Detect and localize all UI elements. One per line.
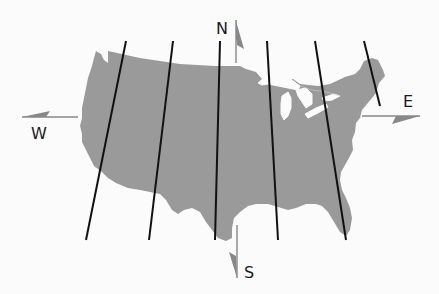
west-arrow: W bbox=[22, 111, 78, 143]
us-landmass bbox=[80, 51, 385, 241]
south-arrow: S bbox=[229, 225, 254, 282]
east-arrow-head bbox=[392, 116, 420, 124]
east-label: E bbox=[403, 92, 413, 111]
map-canvas: N S W E bbox=[0, 0, 439, 294]
north-label: N bbox=[216, 19, 228, 38]
west-label: W bbox=[31, 124, 47, 143]
us-map-figure: N S W E bbox=[0, 0, 439, 294]
south-arrow-head bbox=[229, 252, 237, 278]
west-arrow-head bbox=[22, 111, 50, 117]
south-label: S bbox=[244, 263, 254, 282]
north-arrow-head bbox=[236, 21, 244, 49]
